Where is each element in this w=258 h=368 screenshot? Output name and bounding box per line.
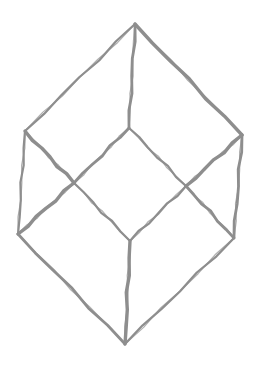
edge-x_left-lower_left bbox=[18, 183, 74, 234]
rhombic-dodecahedron-sketch bbox=[0, 0, 258, 368]
edge-x_right-lower_right bbox=[186, 186, 234, 238]
edge-group bbox=[18, 24, 242, 344]
